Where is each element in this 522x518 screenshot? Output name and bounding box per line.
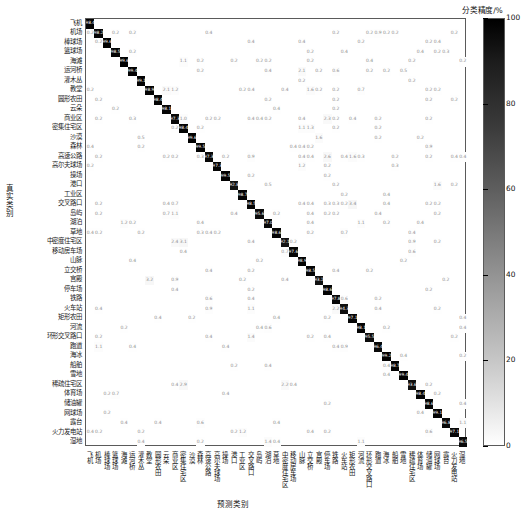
heatmap-cell-28-10: 0.4: [171, 285, 179, 295]
heatmap-cell-19-40: 0.2: [425, 200, 433, 210]
heatmap-cell-7-27: 0.2: [315, 86, 323, 96]
heatmap-cell-1-5: 0.2: [128, 29, 136, 39]
heatmap-cell-1-29: 0.2: [332, 29, 340, 39]
heatmap-cell-19-41: 0.2: [433, 200, 441, 210]
heatmap-cell-14-25: 0.4: [298, 152, 306, 162]
heatmap-cell-4-17: 0.2: [230, 57, 238, 67]
heatmap-cell-7-18: 0.2: [238, 86, 246, 96]
heatmap-cell-24-11: 0.4: [179, 247, 187, 257]
heatmap-cell-16-28: 0.2: [323, 171, 331, 181]
heatmap-cell-4-13: 0.2: [196, 57, 204, 67]
heatmap-cell-20-17: 0.4: [230, 209, 238, 219]
heatmap-cell-diagonal-19: 98.5: [247, 200, 255, 210]
heatmap-cell-20-10: 1.1: [171, 209, 179, 219]
heatmap-cell-27-23: 0.4: [281, 276, 289, 286]
heatmap-cell-1-35: 0.2: [382, 29, 390, 39]
heatmap-cell-23-38: 0.9: [408, 238, 416, 248]
colorbar-tick-0: 0: [506, 442, 511, 449]
heatmap-cell-25-37: 0.2: [399, 257, 407, 267]
heatmap-cell-4-33: 0.4: [365, 57, 373, 67]
heatmap-cell-26-14: 0.4: [205, 266, 213, 276]
heatmap-cell-5-13: 0.2: [196, 67, 204, 77]
heatmap-cell-14-16: 0.2: [221, 152, 229, 162]
heatmap-cell-diagonal-32: 98.1: [357, 323, 365, 333]
heatmap-cell-22-13: 0.3: [196, 228, 204, 238]
row-label-44: 湿地: [16, 438, 82, 444]
heatmap-cell-diagonal-42: 96.8: [442, 418, 450, 428]
heatmap-cell-diagonal-33: 95.5: [365, 333, 373, 343]
heatmap-cell-diagonal-0: 98.4: [86, 19, 94, 29]
heatmap-cell-32-20: 0.4: [255, 323, 263, 333]
heatmap-cell-23-11: 3.1: [179, 238, 187, 248]
row-label-30: 火车站: [16, 305, 82, 311]
heatmap-cell-diagonal-6: 99.1: [137, 76, 145, 86]
heatmap-cell-30-34: 0.4: [374, 304, 382, 314]
row-label-34: 跑道: [16, 343, 82, 349]
heatmap-cell-7-40: 0.2: [425, 86, 433, 96]
heatmap-cell-12-39: 0.2: [416, 133, 424, 143]
heatmap-cell-7-10: 1.2: [171, 86, 179, 96]
heatmap-cell-10-29: 0.2: [332, 114, 340, 124]
heatmap-cell-13-40: 0.9: [425, 143, 433, 153]
heatmap-cell-33-28: 0.4: [323, 333, 331, 343]
heatmap-cell-32-21: 0.6: [264, 323, 272, 333]
heatmap-cell-11-25: 1.1: [298, 124, 306, 134]
row-label-9: 云朵: [16, 105, 82, 111]
heatmap-cell-23-19: 0.4: [247, 238, 255, 248]
heatmap-cell-31-12: 0.2: [188, 314, 196, 324]
heatmap-cell-32-35: 0.2: [382, 323, 390, 333]
heatmap-cell-diagonal-26: 98.5: [306, 266, 314, 276]
heatmap-cell-diagonal-38: 93.6: [408, 380, 416, 390]
row-label-0: 飞机: [16, 20, 82, 26]
heatmap-cell-26-29: 0.4: [332, 266, 340, 276]
heatmap-cell-38-11: 2.9: [179, 380, 187, 390]
row-label-38: 稀疏住宅区: [16, 381, 82, 387]
colorbar-tickmark-0: [483, 446, 488, 447]
heatmap-cell-10-20: 0.4: [255, 114, 263, 124]
heatmap-cell-2-1: 0.2: [94, 38, 102, 48]
heatmap-cell-31-8: 0.4: [154, 314, 162, 324]
heatmap-cell-diagonal-9: 98.1: [162, 105, 170, 115]
row-label-19: 交叉路口: [16, 200, 82, 206]
row-label-4: 海滩: [16, 58, 82, 64]
heatmap-cell-diagonal-22: 98.6: [272, 228, 280, 238]
heatmap-cell-21-32: 1.1: [357, 219, 365, 229]
heatmap-cell-4-21: 0.2: [264, 57, 272, 67]
row-label-28: 停车场: [16, 286, 82, 292]
heatmap-cell-4-20: 0.2: [255, 57, 263, 67]
heatmap-cell-20-28: 0.2: [323, 209, 331, 219]
heatmap-cell-14-9: 0.2: [162, 152, 170, 162]
heatmap-cell-31-22: 0.4: [272, 314, 280, 324]
heatmap-cell-10-28: 2.3: [323, 114, 331, 124]
heatmap-cell-diagonal-39: 98.4: [416, 390, 424, 400]
heatmap-cell-24-23: 0.7: [281, 247, 289, 257]
heatmap-cell-7-32: 0.7: [357, 86, 365, 96]
heatmap-cell-diagonal-21: 97.0: [264, 219, 272, 229]
heatmap-cell-2-32: 0.2: [357, 38, 365, 48]
heatmap-cell-38-40: 0.2: [425, 380, 433, 390]
heatmap-cell-18-35: 0.4: [382, 190, 390, 200]
heatmap-cell-diagonal-20: 95.6: [255, 209, 263, 219]
heatmap-cell-5-33: 0.2: [365, 67, 373, 77]
heatmap-cell-19-1: 0.2: [94, 200, 102, 210]
heatmap-cell-22-1: 0.2: [94, 228, 102, 238]
heatmap-cell-diagonal-13: 99.5: [196, 143, 204, 153]
heatmap-cell-38-23: 2.2: [281, 380, 289, 390]
row-label-12: 沙漠: [16, 134, 82, 140]
row-label-24: 移动房车场: [16, 248, 82, 254]
heatmap-cell-19-26: 0.4: [306, 200, 314, 210]
heatmap-cell-5-25: 2.1: [298, 67, 306, 77]
heatmap-cell-32-44: 0.4: [459, 323, 467, 333]
heatmap-cell-43-28: 0.2: [323, 428, 331, 438]
row-label-7: 教堂: [16, 86, 82, 92]
heatmap-cell-14-13: 0.3: [196, 152, 204, 162]
heatmap-cell-21-39: 0.4: [416, 219, 424, 229]
heatmap-cell-7-23: 0.4: [281, 86, 289, 96]
heatmap-cell-8-1: 0.2: [94, 95, 102, 105]
heatmap-cell-20-1: 0.2: [94, 209, 102, 219]
heatmap-cell-10-25: 0.4: [298, 114, 306, 124]
heatmap-cell-44-13: 0.2: [196, 437, 204, 447]
heatmap-cell-19-25: 0.4: [298, 200, 306, 210]
heatmap-cell-29-14: 0.6: [205, 295, 213, 305]
heatmap-cell-11-29: 0.2: [332, 124, 340, 134]
